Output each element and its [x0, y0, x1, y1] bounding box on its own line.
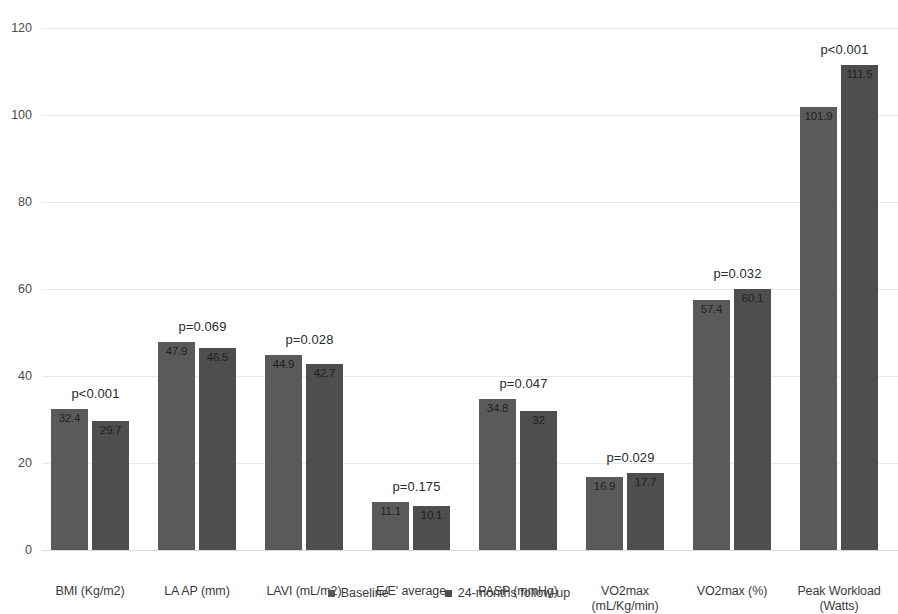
bar[interactable]: 101.9: [800, 107, 837, 550]
legend-item[interactable]: Baseline: [328, 586, 389, 600]
p-value-annotation: p=0.069: [149, 319, 256, 334]
p-value-annotation: p=0.175: [363, 479, 470, 494]
bar-value-label: 10.1: [413, 509, 450, 522]
bar-value-label: 34.8: [479, 402, 516, 415]
bar-group: 32.429.7p<0.001BMI (Kg/m2): [42, 28, 149, 550]
bar[interactable]: 46.5: [199, 348, 236, 550]
y-axis-tick-label: 80: [0, 195, 32, 209]
bar[interactable]: 47.9: [158, 342, 195, 550]
p-value-annotation: p<0.001: [42, 386, 149, 401]
bar-group: 101.9111.5p<0.001Peak Workload(Watts): [791, 28, 898, 550]
y-axis-tick-label: 60: [0, 282, 32, 296]
legend-swatch-icon: [445, 590, 452, 597]
bar-group: 57.460.1p=0.032VO2max (%): [684, 28, 791, 550]
y-axis-tick-label: 120: [0, 21, 32, 35]
p-value-annotation: p=0.047: [470, 376, 577, 391]
p-value-annotation: p=0.029: [577, 450, 684, 465]
bar-value-label: 17.7: [627, 476, 664, 489]
bar-group: 47.946.5p=0.069LA AP (mm): [149, 28, 256, 550]
bar-group: 11.110.1p=0.175E/E' average: [363, 28, 470, 550]
bar-group: 16.917.7p=0.029VO2max(mL/Kg/min): [577, 28, 684, 550]
bar-value-label: 32.4: [51, 412, 88, 425]
legend-label: Baseline: [341, 586, 389, 600]
bar-value-label: 60.1: [734, 292, 771, 305]
bar[interactable]: 60.1: [734, 289, 771, 550]
legend-swatch-icon: [328, 590, 335, 597]
plot-area: 32.429.7p<0.001BMI (Kg/m2)47.946.5p=0.06…: [42, 28, 898, 550]
bar-value-label: 46.5: [199, 351, 236, 364]
p-value-annotation: p=0.032: [684, 266, 791, 281]
y-axis-tick-label: 100: [0, 108, 32, 122]
bar-value-label: 44.9: [265, 358, 302, 371]
bar-value-label: 11.1: [372, 505, 409, 518]
bar[interactable]: 32: [520, 411, 557, 550]
bar[interactable]: 111.5: [841, 65, 878, 550]
bar[interactable]: 34.8: [479, 399, 516, 550]
bar[interactable]: 29.7: [92, 421, 129, 550]
p-value-annotation: p<0.001: [791, 42, 898, 57]
bar[interactable]: 57.4: [693, 300, 730, 550]
bar-value-label: 32: [520, 414, 557, 427]
x-axis-line: [42, 550, 898, 551]
bar[interactable]: 42.7: [306, 364, 343, 550]
bar-value-label: 101.9: [800, 110, 837, 123]
y-axis: 020406080100120: [0, 28, 36, 550]
bar-value-label: 47.9: [158, 345, 195, 358]
p-value-annotation: p=0.028: [256, 332, 363, 347]
bar-group: 44.942.7p=0.028LAVI (mL/m2): [256, 28, 363, 550]
bar[interactable]: 32.4: [51, 409, 88, 550]
bar[interactable]: 17.7: [627, 473, 664, 550]
bar-value-label: 42.7: [306, 367, 343, 380]
legend-item[interactable]: 24-months follow-up: [445, 586, 571, 600]
legend-label: 24-months follow-up: [458, 586, 571, 600]
bar-value-label: 57.4: [693, 303, 730, 316]
bar-group: 34.832p=0.047PASP (mmHg): [470, 28, 577, 550]
bar-value-label: 29.7: [92, 424, 129, 437]
bar[interactable]: 44.9: [265, 355, 302, 550]
bar-value-label: 111.5: [841, 68, 878, 81]
bar-value-label: 16.9: [586, 480, 623, 493]
y-axis-tick-label: 0: [0, 543, 32, 557]
y-axis-tick-label: 40: [0, 369, 32, 383]
bar[interactable]: 16.9: [586, 477, 623, 551]
chart-legend: Baseline24-months follow-up: [0, 586, 898, 600]
bar[interactable]: 11.1: [372, 502, 409, 550]
y-axis-tick-label: 20: [0, 456, 32, 470]
bar[interactable]: 10.1: [413, 506, 450, 550]
